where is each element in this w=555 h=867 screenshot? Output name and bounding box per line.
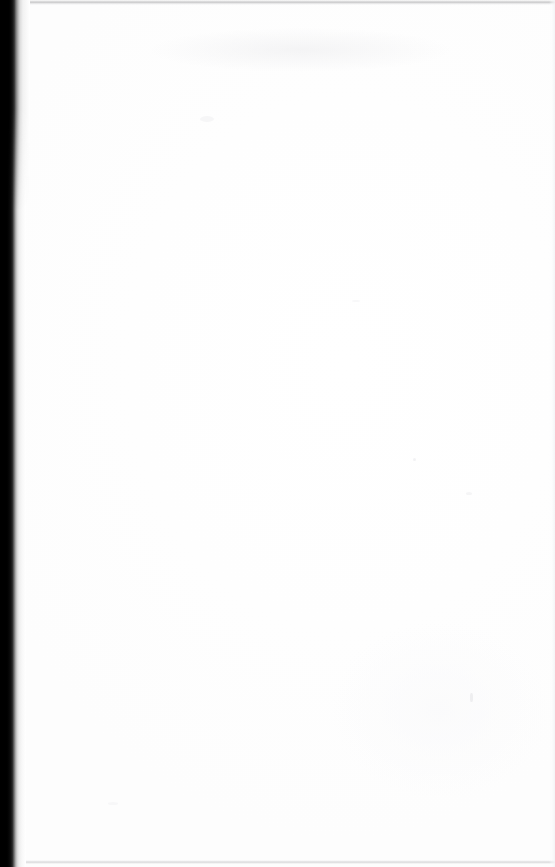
scan-edge-top xyxy=(20,0,555,5)
scan-edge-right xyxy=(549,0,555,867)
scanned-page-viewport xyxy=(0,0,555,867)
scan-speck xyxy=(470,693,473,702)
scan-edge-bottom xyxy=(14,860,555,864)
binding-gutter-shadow-top xyxy=(0,0,30,210)
scan-speck xyxy=(413,458,416,461)
scan-speck xyxy=(200,116,214,122)
scan-speck xyxy=(108,802,118,805)
scan-speck xyxy=(466,492,472,495)
page-surface xyxy=(0,0,555,867)
scan-speck xyxy=(352,300,360,302)
